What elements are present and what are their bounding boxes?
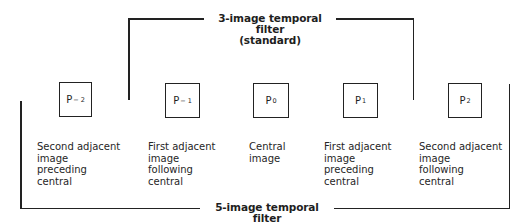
description-line: Second adjacent xyxy=(37,141,120,153)
image-label: P xyxy=(173,95,179,106)
five-image-filter-title: 5-image temporal filter xyxy=(200,202,334,224)
description-line: image xyxy=(419,153,502,165)
description-line: image xyxy=(37,153,120,165)
description-line: central xyxy=(148,176,216,188)
five-image-bracket-bottom-left-line xyxy=(20,208,204,210)
image-subscript: 1 xyxy=(362,97,366,105)
description-line: image xyxy=(249,153,285,165)
description-p-0: Central image xyxy=(249,141,285,164)
description-line: preceding xyxy=(324,164,392,176)
description-line: following xyxy=(419,164,502,176)
description-line: image xyxy=(148,153,216,165)
five-image-bracket-left-line xyxy=(20,101,22,209)
description-line: First adjacent xyxy=(148,141,216,153)
three-image-bracket-top-left-line xyxy=(128,18,208,20)
description-line: Second adjacent xyxy=(419,141,502,153)
three-image-filter-title-line1: 3-image temporal filter xyxy=(208,13,332,35)
image-box-p-0: P0 xyxy=(253,83,289,118)
five-image-bracket-bottom-right-line xyxy=(331,208,510,210)
description-line: Central xyxy=(249,141,285,153)
description-p-minus-1: First adjacent image following central xyxy=(148,141,216,187)
image-subscript: 0 xyxy=(272,97,276,105)
three-image-bracket-left-line xyxy=(128,18,130,100)
image-subscript: − 1 xyxy=(180,97,192,105)
description-line: image xyxy=(324,153,392,165)
image-label: P xyxy=(355,95,361,106)
image-box-p-minus-2: P− 2 xyxy=(59,82,92,117)
description-line: First adjacent xyxy=(324,141,392,153)
five-image-bracket-right-line xyxy=(509,84,511,209)
image-box-p-1: P1 xyxy=(343,83,378,118)
three-image-bracket-top-right-line xyxy=(332,18,414,20)
image-box-p-2: P2 xyxy=(448,83,482,118)
description-line: following xyxy=(148,164,216,176)
description-line: central xyxy=(419,176,502,188)
image-subscript: − 2 xyxy=(73,96,85,104)
description-p-minus-2: Second adjacent image preceding central xyxy=(37,141,120,187)
image-label: P xyxy=(459,95,465,106)
image-subscript: 2 xyxy=(466,97,470,105)
description-p-1: First adjacent image preceding central xyxy=(324,141,392,187)
description-p-2: Second adjacent image following central xyxy=(419,141,502,187)
image-label: P xyxy=(265,95,271,106)
image-box-p-minus-1: P− 1 xyxy=(165,83,200,118)
description-line: central xyxy=(324,176,392,188)
description-line: preceding xyxy=(37,164,120,176)
description-line: central xyxy=(37,176,120,188)
image-label: P xyxy=(66,94,72,105)
three-image-filter-title-line2: (standard) xyxy=(208,35,332,46)
three-image-filter-title: 3-image temporal filter (standard) xyxy=(204,13,336,46)
three-image-bracket-right-line xyxy=(413,18,415,100)
